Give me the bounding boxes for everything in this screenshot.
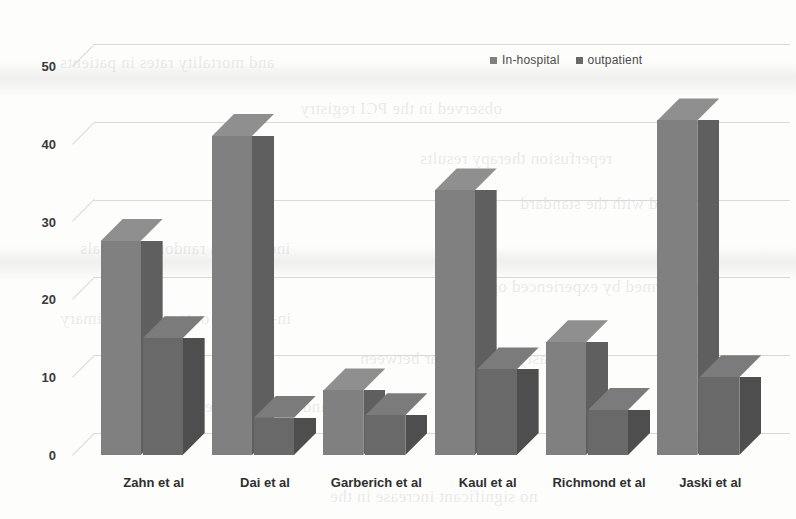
bar-front-face: [212, 136, 252, 455]
bar-chart-plot: 01020304050Zahn et alDai et alGarberich …: [0, 0, 796, 519]
legend-label: In-hospital: [502, 53, 560, 67]
bar-front-face: [588, 410, 628, 455]
y-axis-tick-label: 10: [0, 370, 56, 385]
x-axis-category-label: Jaski et al: [679, 475, 741, 490]
bar-outpatient: [365, 415, 405, 455]
x-axis-category-label: Garberich et al: [331, 475, 422, 490]
bar-front-face: [657, 120, 697, 455]
square-marker-icon: [490, 57, 497, 64]
gridline-depth-edge: [72, 433, 95, 456]
bar-in-hospital: [435, 190, 475, 455]
chart-screenshot: and mortality rates in patients observed…: [0, 0, 796, 519]
bar-front-face: [699, 377, 739, 455]
bar-in-hospital: [212, 136, 252, 455]
bar-in-hospital: [323, 390, 363, 455]
bar-in-hospital: [546, 342, 586, 455]
gridline-depth-edge: [72, 122, 95, 145]
x-axis-category-label: Kaul et al: [459, 475, 517, 490]
x-axis-category-label: Zahn et al: [123, 475, 184, 490]
x-axis-category-label: Richmond et al: [552, 475, 645, 490]
bar-front-face: [435, 190, 475, 455]
bar-outpatient: [254, 418, 294, 455]
bar-top-face: [435, 168, 497, 190]
bar-front-face: [546, 342, 586, 455]
y-axis-tick-label: 40: [0, 136, 56, 151]
bar-front-face: [143, 338, 183, 455]
y-axis-tick-label: 50: [0, 59, 56, 74]
bar-in-hospital: [101, 241, 141, 455]
bar-outpatient: [143, 338, 183, 455]
gridline-depth-edge: [72, 355, 95, 378]
gridline-depth-edge: [72, 44, 95, 67]
bar-top-face: [323, 368, 385, 390]
bar-side-face: [517, 369, 539, 455]
chart-legend: In-hospitaloutpatient: [490, 53, 642, 67]
bar-top-face: [101, 219, 163, 241]
bar-side-face: [628, 410, 650, 455]
legend-item-outpatient[interactable]: outpatient: [576, 53, 643, 67]
bar-front-face: [254, 418, 294, 455]
gridline: [94, 44, 790, 45]
bar-front-face: [101, 241, 141, 455]
bar-front-face: [477, 369, 517, 455]
y-axis-tick-label: 30: [0, 214, 56, 229]
y-axis-tick-label: 0: [0, 448, 56, 463]
bar-side-face: [405, 415, 427, 455]
bar-outpatient: [477, 369, 517, 455]
bar-front-face: [365, 415, 405, 455]
bar-top-face: [657, 98, 719, 120]
bar-front-face: [323, 390, 363, 455]
legend-label: outpatient: [588, 53, 643, 67]
x-axis-category-label: Dai et al: [240, 475, 290, 490]
gridline-depth-edge: [72, 200, 95, 223]
legend-item-in-hospital[interactable]: In-hospital: [490, 53, 560, 67]
y-axis-tick-label: 20: [0, 292, 56, 307]
bar-side-face: [739, 377, 761, 455]
bar-outpatient: [588, 410, 628, 455]
bar-top-face: [212, 114, 274, 136]
bar-outpatient: [699, 377, 739, 455]
bar-side-face: [183, 338, 205, 455]
bar-side-face: [294, 418, 316, 455]
square-marker-icon: [576, 57, 583, 64]
bar-in-hospital: [657, 120, 697, 455]
bar-top-face: [546, 320, 608, 342]
gridline-depth-edge: [72, 277, 95, 300]
